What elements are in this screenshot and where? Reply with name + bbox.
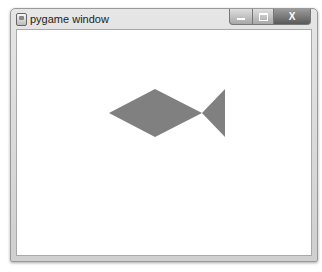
pygame-window: pygame window X (10, 8, 318, 262)
title-bar[interactable]: pygame window X (11, 9, 317, 29)
fish-tail (202, 89, 225, 137)
maximize-icon (259, 13, 268, 21)
minimize-button[interactable] (229, 9, 253, 25)
pygame-app-icon[interactable] (16, 13, 27, 26)
window-title: pygame window (30, 13, 109, 25)
fish-body (109, 89, 202, 137)
close-button[interactable]: X (274, 9, 311, 25)
maximize-button[interactable] (253, 9, 274, 25)
minimize-icon (237, 18, 245, 20)
close-icon: X (289, 11, 296, 22)
window-controls: X (229, 9, 311, 24)
game-canvas[interactable] (16, 29, 312, 256)
canvas-drawing (17, 30, 311, 256)
